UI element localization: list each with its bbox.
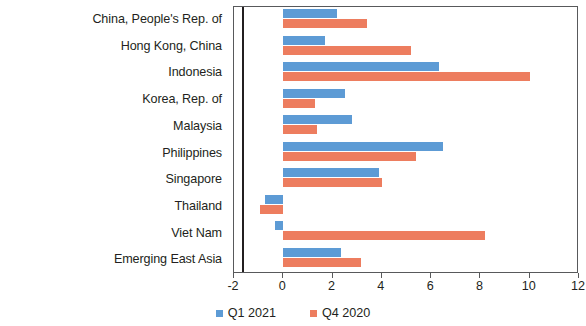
axis-tick-label: 10 xyxy=(522,280,536,293)
axis-tick xyxy=(332,273,333,278)
axis-tick xyxy=(233,273,234,278)
legend-label: Q4 2020 xyxy=(322,307,370,320)
bar-q4-2020 xyxy=(283,231,485,240)
category-label: Indonesia xyxy=(0,59,228,86)
axis-tick xyxy=(479,273,480,278)
chart-legend: Q1 2021Q4 2020 xyxy=(0,303,586,323)
axis-tick-label: 8 xyxy=(476,280,483,293)
category-label: Viet Nam xyxy=(0,220,228,247)
bar-q4-2020 xyxy=(283,258,361,267)
category-label: Philippines xyxy=(0,140,228,167)
bar-q1-2021 xyxy=(283,142,443,151)
bar-row xyxy=(234,113,577,140)
axis-tick xyxy=(282,273,283,278)
bar-q1-2021 xyxy=(265,195,283,204)
bar-q4-2020 xyxy=(283,99,315,108)
legend-label: Q1 2021 xyxy=(228,307,276,320)
bar-q1-2021 xyxy=(283,115,352,124)
value-axis-labels: -2024681012 xyxy=(233,280,578,298)
plot-area xyxy=(233,6,578,273)
bar-q4-2020 xyxy=(283,46,411,55)
category-label: Hong Kong, China xyxy=(0,33,228,60)
bar-chart: China, People's Rep. ofHong Kong, ChinaI… xyxy=(0,0,586,326)
bar-row xyxy=(234,60,577,87)
bar-row xyxy=(234,87,577,114)
axis-tick-label: 0 xyxy=(279,280,286,293)
axis-tick xyxy=(529,273,530,278)
bar-row xyxy=(234,246,577,273)
bar-row xyxy=(234,140,577,167)
legend-item[interactable]: Q1 2021 xyxy=(216,307,276,320)
bar-row xyxy=(234,219,577,246)
bar-q4-2020 xyxy=(283,19,367,28)
bar-row xyxy=(234,166,577,193)
axis-tick-label: -2 xyxy=(227,280,238,293)
axis-tick-label: 2 xyxy=(328,280,335,293)
axis-tick xyxy=(381,273,382,278)
category-label: Thailand xyxy=(0,193,228,220)
category-label: Emerging East Asia xyxy=(0,246,228,273)
bar-q4-2020 xyxy=(283,125,316,134)
zero-axis-line xyxy=(242,7,244,272)
legend-swatch-icon xyxy=(310,310,317,317)
bar-q1-2021 xyxy=(283,9,337,18)
bar-q1-2021 xyxy=(283,62,438,71)
bar-q1-2021 xyxy=(283,248,341,257)
bar-q1-2021 xyxy=(275,221,284,230)
bar-q4-2020 xyxy=(283,178,382,187)
bar-q4-2020 xyxy=(260,205,283,214)
axis-tick xyxy=(578,273,579,278)
axis-tick-label: 6 xyxy=(427,280,434,293)
category-label: Korea, Rep. of xyxy=(0,86,228,113)
axis-tick-label: 12 xyxy=(571,280,585,293)
bar-q1-2021 xyxy=(283,89,345,98)
category-label: China, People's Rep. of xyxy=(0,6,228,33)
bar-row xyxy=(234,193,577,220)
bar-q1-2021 xyxy=(283,36,325,45)
axis-tick xyxy=(430,273,431,278)
legend-swatch-icon xyxy=(216,310,223,317)
category-label: Malaysia xyxy=(0,113,228,140)
bar-q4-2020 xyxy=(283,72,529,81)
category-axis-labels: China, People's Rep. ofHong Kong, ChinaI… xyxy=(0,6,228,273)
bar-rows xyxy=(234,7,577,272)
bar-q1-2021 xyxy=(283,168,379,177)
category-label: Singapore xyxy=(0,166,228,193)
bar-q4-2020 xyxy=(283,152,416,161)
legend-item[interactable]: Q4 2020 xyxy=(310,307,370,320)
bar-row xyxy=(234,7,577,34)
axis-tick-label: 4 xyxy=(377,280,384,293)
bar-row xyxy=(234,34,577,61)
